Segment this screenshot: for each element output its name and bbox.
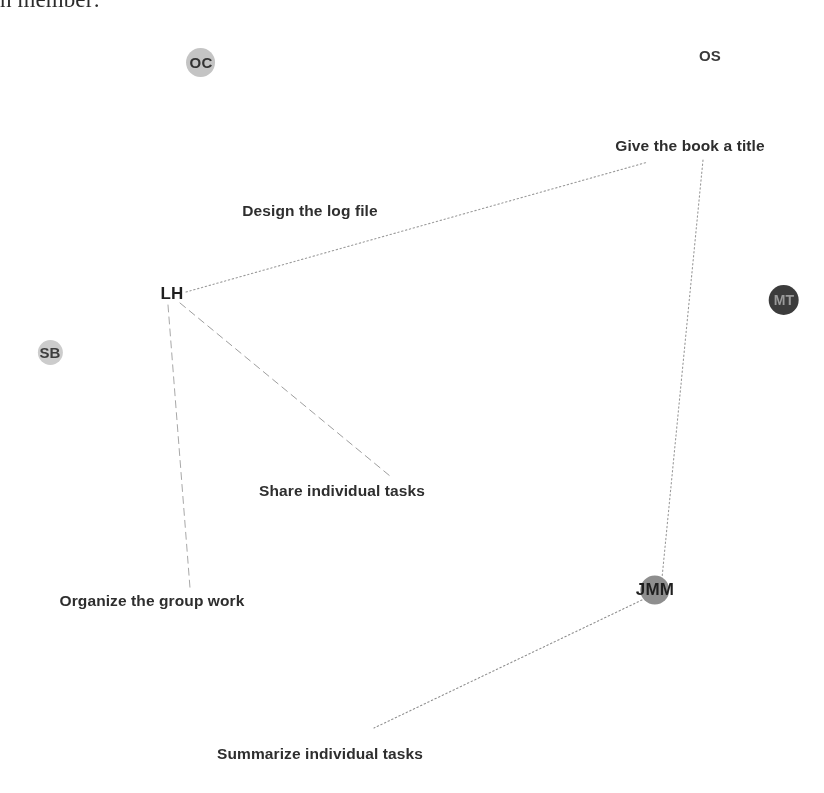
node-oc[interactable]: OC [190,54,213,71]
edge-lh-to-give-the-book-a-title [186,162,648,292]
node-label: OC [190,54,213,71]
task-label-give-the-book-a-title[interactable]: Give the book a title [615,137,764,155]
node-label: MT [774,292,795,308]
diagram-page: h member: OCOSLHSBMTJMM Give the book a … [0,0,824,793]
node-sb[interactable]: SB [39,344,60,361]
task-label-design-the-log-file[interactable]: Design the log file [242,202,377,220]
edge-lh-to-share-individual-tasks [180,303,390,476]
node-mt[interactable]: MT [774,292,795,308]
task-label-share-individual-tasks[interactable]: Share individual tasks [259,482,425,500]
node-label: JMM [636,580,674,600]
task-label-summarize-individual-tasks[interactable]: Summarize individual tasks [217,745,423,763]
task-label-organize-the-group-work[interactable]: Organize the group work [60,592,245,610]
node-label: OS [699,47,721,64]
edge-layer [0,0,824,793]
edge-jmm-to-summarize-individual-tasks [374,600,642,728]
node-label: SB [39,344,60,361]
node-lh[interactable]: LH [160,284,183,304]
node-jmm[interactable]: JMM [636,580,674,600]
edge-lh-to-organize-the-group-work [168,305,190,588]
edge-give-the-book-a-title-to-jmm [662,160,703,578]
node-os[interactable]: OS [699,47,721,64]
node-label: LH [160,284,183,304]
